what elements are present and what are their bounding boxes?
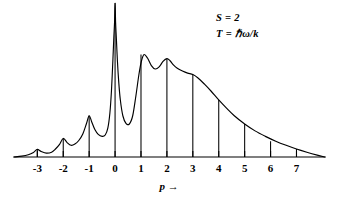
plot-geometry [14, 3, 325, 157]
spectrum-envelope-curve [14, 3, 325, 157]
x-tick-label-neg3: -3 [33, 162, 42, 174]
x-tick-label-6: 6 [268, 162, 274, 174]
x-axis-title: p → [159, 180, 178, 192]
x-tick-label-4: 4 [216, 162, 222, 174]
phonon-sideband-figure: S = 2 T = ℏω/k -3-2-101234567 p → [0, 0, 338, 206]
x-tick-label-2: 2 [164, 162, 170, 174]
x-tick-label-3: 3 [190, 162, 196, 174]
x-tick-label-0: 0 [112, 162, 118, 174]
x-tick-label-5: 5 [242, 162, 248, 174]
annotation-huang-rhys-factor: S = 2 [216, 12, 240, 23]
plot-canvas [0, 0, 338, 206]
x-tick-label-neg2: -2 [59, 162, 68, 174]
x-tick-label-1: 1 [138, 162, 144, 174]
x-tick-label-neg1: -1 [85, 162, 94, 174]
annotation-temperature: T = ℏω/k [216, 27, 259, 39]
x-tick-label-7: 7 [294, 162, 300, 174]
